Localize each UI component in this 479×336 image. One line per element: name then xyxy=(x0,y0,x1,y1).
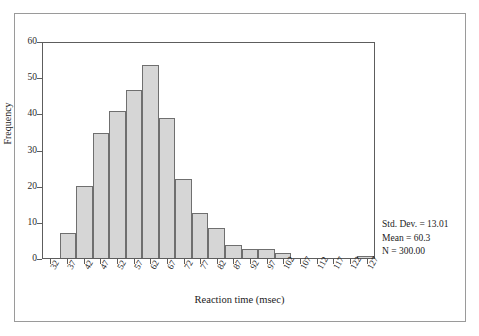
y-tick-mark xyxy=(37,42,42,43)
histogram-bar-slot xyxy=(192,43,209,258)
y-tick-mark xyxy=(37,187,42,188)
y-tick-mark xyxy=(37,259,42,260)
histogram-bar-slot xyxy=(43,43,60,258)
histogram-bar-slot xyxy=(142,43,159,258)
histogram-bar xyxy=(93,133,110,258)
y-tick-mark xyxy=(37,151,42,152)
std-dev-text: Std. Dev. = 13.01 xyxy=(382,218,449,232)
histogram-bar-slot xyxy=(208,43,225,258)
y-tick-label: 20 xyxy=(15,182,37,192)
histogram-bar-slot xyxy=(159,43,176,258)
y-tick-mark xyxy=(37,223,42,224)
x-axis-title: Reaction time (msec) xyxy=(0,294,479,305)
histogram-bar xyxy=(109,111,126,258)
histogram-bar-slot xyxy=(357,43,374,258)
histogram-bars xyxy=(43,43,374,258)
histogram-bar xyxy=(175,179,192,258)
mean-text: Mean = 60.3 xyxy=(382,232,449,246)
histogram-bar-slot xyxy=(341,43,358,258)
histogram-bar-slot xyxy=(76,43,93,258)
y-tick-label: 60 xyxy=(15,37,37,47)
n-text: N = 300.00 xyxy=(382,245,449,259)
histogram-bar xyxy=(208,228,225,258)
histogram-bar-slot xyxy=(291,43,308,258)
y-tick-label: 10 xyxy=(15,218,37,228)
y-axis-title: Frequency xyxy=(2,102,13,144)
histogram-bar xyxy=(159,118,176,258)
y-tick-mark xyxy=(37,114,42,115)
histogram-bar-slot xyxy=(126,43,143,258)
histogram-bar xyxy=(225,245,242,258)
histogram-bar-slot xyxy=(109,43,126,258)
statistics-annotation: Std. Dev. = 13.01 Mean = 60.3 N = 300.00 xyxy=(382,218,449,259)
histogram-bar xyxy=(60,233,77,258)
histogram-bar-slot xyxy=(93,43,110,258)
histogram-bar-slot xyxy=(275,43,292,258)
y-tick-label: 30 xyxy=(15,146,37,156)
histogram-bar xyxy=(76,186,93,258)
histogram-bar-slot xyxy=(324,43,341,258)
histogram-bar-slot xyxy=(308,43,325,258)
histogram-bar xyxy=(142,65,159,259)
histogram-bar xyxy=(126,90,143,258)
histogram-bar xyxy=(192,213,209,258)
y-tick-mark xyxy=(37,78,42,79)
histogram-bar-slot xyxy=(242,43,259,258)
y-tick-label: 0 xyxy=(15,254,37,264)
histogram-bar xyxy=(242,249,259,258)
histogram-bar xyxy=(258,249,275,258)
histogram-bar-slot xyxy=(258,43,275,258)
histogram-bar-slot xyxy=(225,43,242,258)
plot-area xyxy=(42,42,375,259)
y-tick-label: 40 xyxy=(15,109,37,119)
histogram-bar-slot xyxy=(175,43,192,258)
histogram-bar-slot xyxy=(60,43,77,258)
y-tick-label: 50 xyxy=(15,73,37,83)
